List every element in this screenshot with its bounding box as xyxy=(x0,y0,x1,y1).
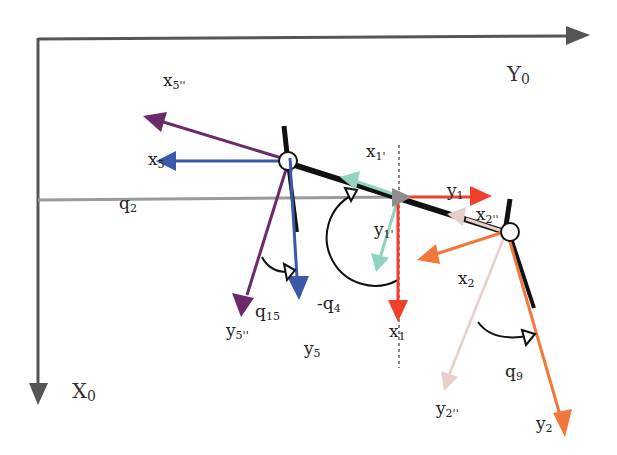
y2pp-arrowhead-icon xyxy=(441,371,458,391)
label-minus-q4: -q4 xyxy=(317,295,341,314)
q9-rotation-arc xyxy=(478,322,528,337)
label-x2pp: x2'' xyxy=(476,206,499,225)
label-y2: y2 xyxy=(536,415,553,434)
kinematic-diagram: Y0 X0 x5'' x5 q2 x1' y1 x2'' y1' x2 q15 … xyxy=(0,0,617,455)
label-x5pp: x5'' xyxy=(163,72,186,91)
label-X0: X0 xyxy=(72,381,96,403)
y2-arrowhead-icon xyxy=(553,409,572,437)
label-y5pp: y5'' xyxy=(226,322,249,341)
label-x1: x1 xyxy=(389,323,406,342)
x0-arrowhead-icon xyxy=(29,383,48,405)
label-x5: x5 xyxy=(148,151,165,170)
label-y1: y1 xyxy=(447,182,464,201)
label-y5: y5 xyxy=(304,340,321,359)
joint-2-circle xyxy=(501,223,519,241)
y1-arrowhead-icon xyxy=(470,186,492,206)
label-x1p: x1' xyxy=(366,143,386,162)
label-q15: q15 xyxy=(255,303,280,322)
label-q2: q2 xyxy=(119,195,137,214)
frame-5pp xyxy=(143,112,288,317)
y0-arrowhead-icon xyxy=(566,26,590,45)
label-x2: x2 xyxy=(458,270,475,289)
x2-arrowhead-icon xyxy=(417,244,440,264)
y5pp-arrowhead-icon xyxy=(232,293,254,317)
label-y2pp: y2'' xyxy=(436,400,459,419)
x5pp-arrowhead-icon xyxy=(143,112,167,132)
label-Y0: Y0 xyxy=(507,64,530,86)
label-q9: q9 xyxy=(505,363,523,382)
x1-arrowhead-icon xyxy=(388,300,408,322)
y1p-arrowhead-icon xyxy=(371,253,389,272)
joint-5-circle xyxy=(279,152,297,170)
q9-rotation-arrowhead-icon xyxy=(522,330,535,345)
y5-arrowhead-icon xyxy=(287,276,309,300)
label-y1p: y1' xyxy=(374,221,394,240)
